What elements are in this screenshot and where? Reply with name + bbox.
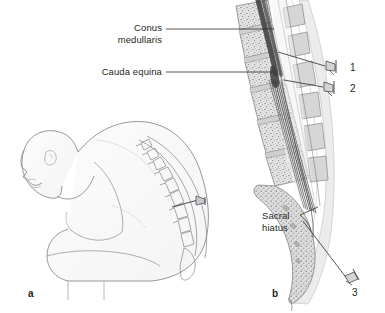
anatomical-figure <box>0 0 385 313</box>
needle-glyph-1 <box>326 60 336 75</box>
marker-number-3: 3 <box>352 287 358 298</box>
label-cauda-equina: Cauda equina <box>76 66 162 78</box>
needle-glyph-3 <box>345 269 359 285</box>
marker-number-1: 1 <box>350 62 356 73</box>
panel-b-spine-section <box>236 0 334 311</box>
label-conus-medullaris: Conus medullaris <box>86 22 162 45</box>
label-sacral-hiatus: Sacral hiatus <box>262 210 316 233</box>
panel-a-patient-drawing <box>21 122 208 300</box>
marker-number-2: 2 <box>350 83 356 94</box>
panel-label-a: a <box>28 288 34 299</box>
panel-label-b: b <box>272 288 278 299</box>
